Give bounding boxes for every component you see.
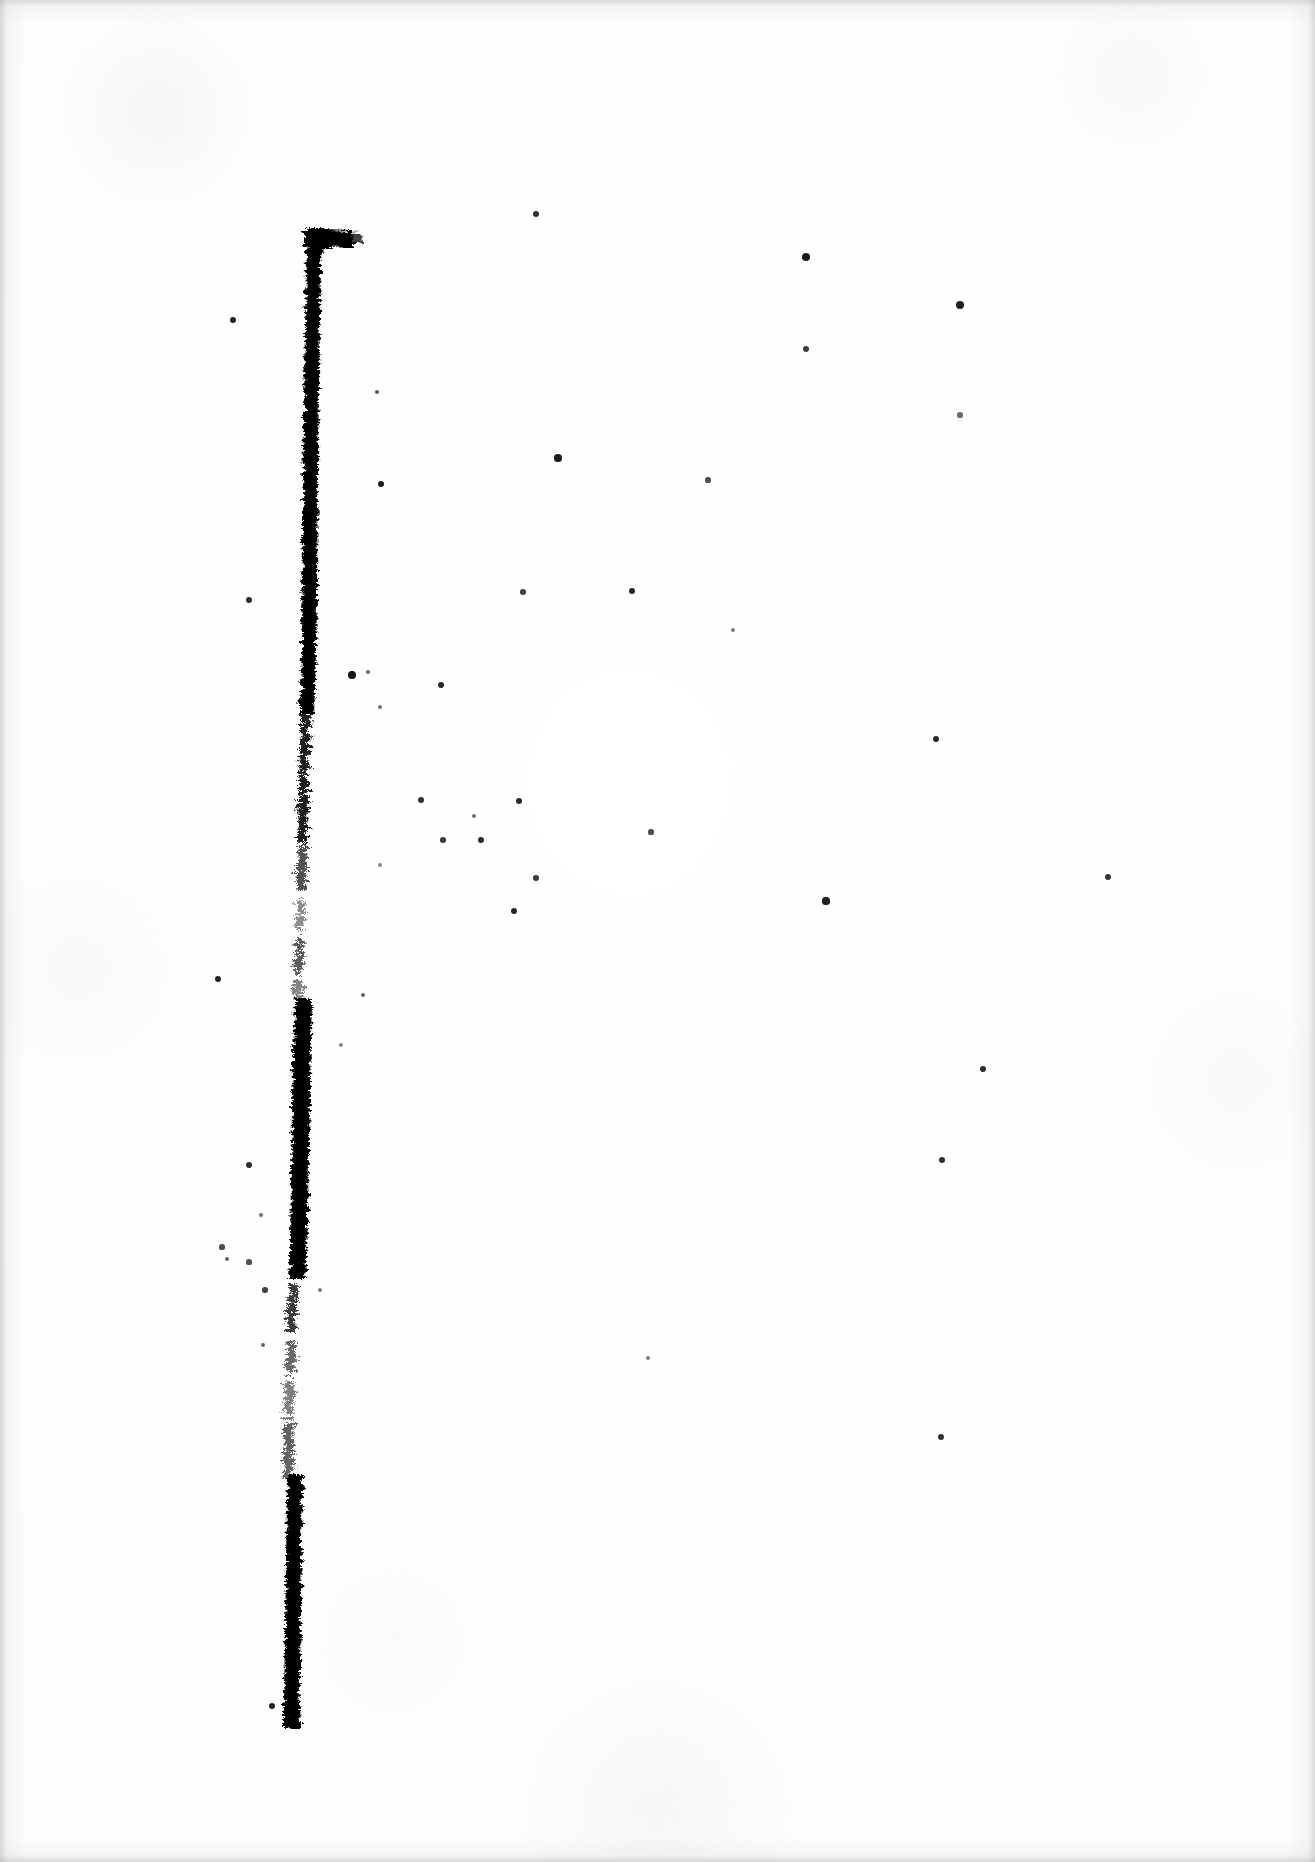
paper-background bbox=[0, 0, 1315, 1862]
scanned-page bbox=[0, 0, 1315, 1862]
